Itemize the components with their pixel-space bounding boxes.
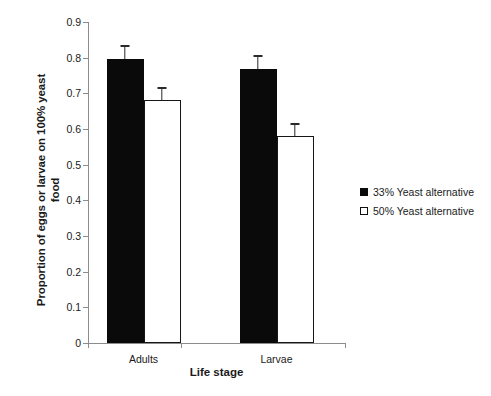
legend-item: 33% Yeast alternative (360, 182, 474, 201)
x-axis-line (88, 343, 345, 344)
x-axis-category-label: Adults (129, 353, 158, 365)
legend-item-label: 50% Yeast alternative (373, 205, 474, 217)
x-axis-tick (181, 343, 182, 348)
y-axis-tick-label: 0.7 (66, 87, 81, 99)
bar (240, 69, 277, 343)
bar (107, 59, 144, 343)
legend-item-label: 33% Yeast alternative (373, 186, 474, 198)
x-axis-category-label: Larvae (260, 353, 292, 365)
legend-item: 50% Yeast alternative (360, 201, 474, 220)
plot-area: 0.90.80.70.60.50.40.30.20.10AdultsLarvae (88, 22, 345, 343)
bar-chart: Proportion of eggs or larvae on 100% yea… (0, 0, 491, 396)
y-axis-tick (83, 22, 88, 23)
y-axis-tick-label: 0.3 (66, 230, 81, 242)
y-axis-tick-label: 0.2 (66, 266, 81, 278)
error-bar-cap (158, 87, 167, 89)
y-axis-tick (83, 200, 88, 201)
y-axis-tick-label: 0.1 (66, 301, 81, 313)
y-axis-tick (83, 307, 88, 308)
x-axis-title: Life stage (88, 366, 345, 378)
x-axis-tick (345, 343, 346, 348)
error-bar-cap (121, 45, 130, 47)
y-axis-tick (83, 129, 88, 130)
y-axis-tick-label: 0 (75, 337, 81, 349)
x-axis-tick (88, 343, 89, 348)
y-axis-tick (83, 236, 88, 237)
bar (144, 100, 181, 343)
y-axis-tick (83, 272, 88, 273)
y-axis-tick-label: 0.5 (66, 159, 81, 171)
legend: 33% Yeast alternative 50% Yeast alternat… (360, 182, 474, 220)
y-axis-tick (83, 165, 88, 166)
bar (277, 136, 314, 343)
error-bar-cap (254, 55, 263, 57)
y-axis-title-line-1: Proportion of eggs or larvae on 100% yea… (34, 25, 48, 355)
y-axis-line (88, 22, 89, 344)
legend-swatch-filled-icon (360, 188, 368, 196)
y-axis-tick (83, 58, 88, 59)
y-axis-tick-label: 0.9 (66, 16, 81, 28)
error-bar-line (161, 87, 162, 100)
error-bar-line (124, 45, 125, 59)
y-axis-tick (83, 93, 88, 94)
y-axis-title-line-2: food (48, 25, 62, 355)
legend-swatch-open-icon (360, 207, 368, 215)
error-bar-line (294, 123, 295, 136)
y-axis-tick-label: 0.6 (66, 123, 81, 135)
y-axis-title: Proportion of eggs or larvae on 100% yea… (34, 25, 62, 355)
error-bar-line (257, 55, 258, 69)
y-axis-tick-label: 0.4 (66, 194, 81, 206)
y-axis-tick-label: 0.8 (66, 52, 81, 64)
error-bar-cap (291, 123, 300, 125)
